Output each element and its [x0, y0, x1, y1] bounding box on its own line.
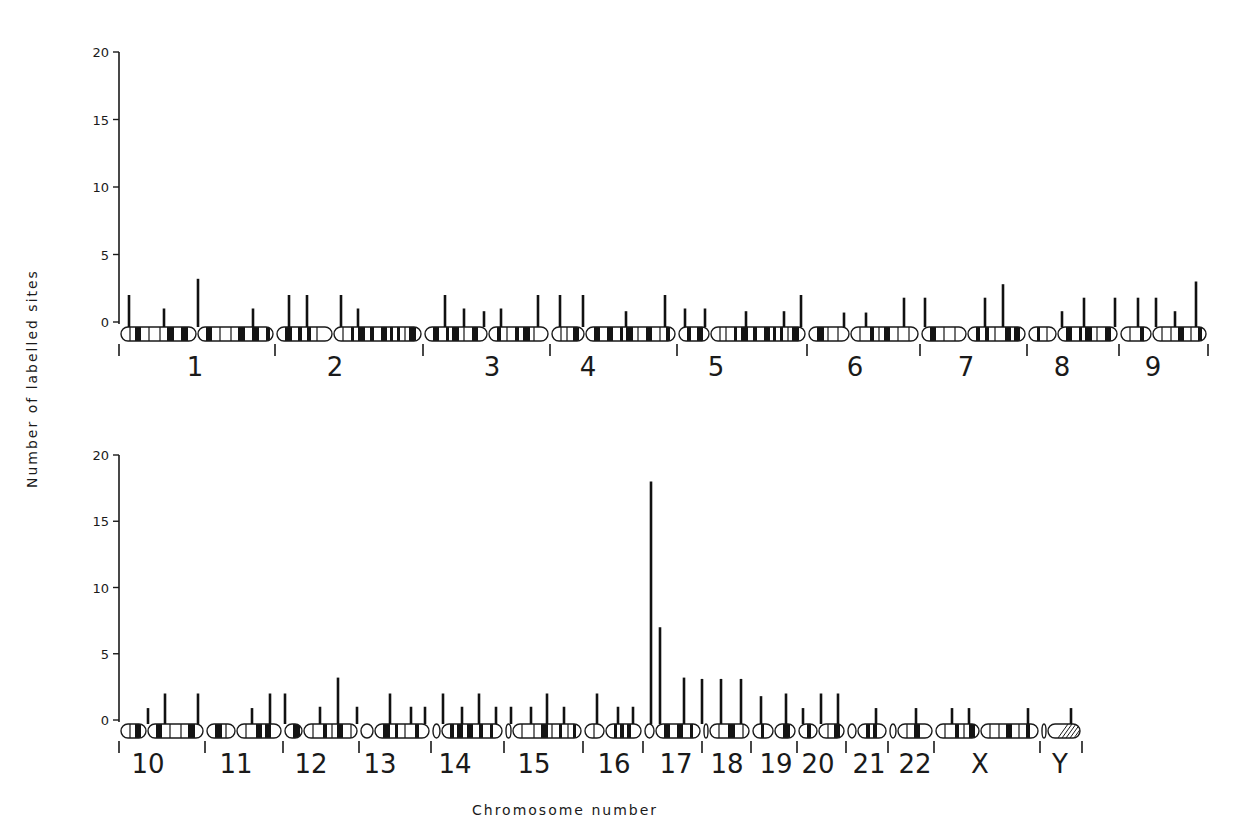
chromosome-label: 2 [327, 352, 344, 382]
y-tick-label: 20 [92, 45, 109, 60]
chromosome-arm [858, 724, 886, 738]
chromosome-label: 22 [898, 749, 931, 779]
chromosome-10: 10 [119, 694, 203, 780]
y-tick-label: 5 [101, 248, 109, 263]
chromosome-7: 7 [920, 284, 1025, 382]
chromosome-label: Y [1051, 749, 1068, 779]
chromosome-21: 21 [846, 708, 886, 779]
chromosome-label: 17 [659, 749, 692, 779]
chromosome-18: 18 [702, 679, 749, 779]
chromosome-arm [819, 724, 844, 738]
chromosome-arm [679, 327, 709, 341]
y-tick-label: 15 [92, 514, 109, 529]
chromosome-label: 11 [219, 749, 252, 779]
chromosome-arm [1029, 327, 1056, 341]
y-tick-label: 5 [101, 647, 109, 662]
chromosome-20: 20 [797, 694, 844, 780]
chromosome-3: 3 [423, 295, 548, 382]
chromosome-x: X [934, 708, 1038, 779]
chromosome-4: 4 [550, 295, 675, 382]
chromosome-label: 15 [517, 749, 550, 779]
y-tick-label: 10 [92, 581, 109, 596]
chromosome-15: 15 [504, 694, 581, 780]
chromosome-11: 11 [205, 694, 281, 780]
chromosome-label: 13 [363, 749, 396, 779]
chromosome-label: 21 [852, 749, 885, 779]
chromosome-14: 14 [431, 694, 502, 780]
chart-panel-bottom: 0510152010111213141516171819202122XY [92, 448, 1100, 779]
chromosome-label: X [971, 749, 989, 779]
chromosome-label: 14 [438, 749, 471, 779]
y-tick-label: 15 [92, 113, 109, 128]
chromosome-22: 22 [888, 708, 932, 779]
chromosome-19: 19 [751, 694, 795, 780]
chromosome-label: 7 [958, 352, 975, 382]
chromosome-distribution-chart: 05101520123456789 0510152010111213141516… [0, 0, 1240, 833]
chromosome-label: 3 [484, 352, 501, 382]
chromosome-6: 6 [807, 298, 918, 382]
chromosome-label: 20 [801, 749, 834, 779]
y-axis-label: Number of labelled sites [24, 269, 40, 488]
chromosome-arm [711, 327, 805, 341]
y-tick-label: 0 [101, 713, 109, 728]
y-tick-label: 10 [92, 180, 109, 195]
chromosome-arm [1121, 327, 1151, 341]
chromosome-arm [809, 327, 849, 341]
chart-panel-top: 05101520123456789 [92, 45, 1208, 382]
chromosome-label: 6 [847, 352, 864, 382]
chromosome-5: 5 [677, 295, 805, 382]
chromosome-9: 9 [1119, 282, 1208, 383]
chromosome-label: 18 [710, 749, 743, 779]
chromosome-label: 19 [759, 749, 792, 779]
chromosome-label: 12 [294, 749, 327, 779]
chromosome-8: 8 [1027, 298, 1117, 382]
chromosome-label: 10 [131, 749, 164, 779]
chromosome-arm [121, 724, 146, 738]
chromosome-1: 1 [119, 279, 273, 382]
chromosome-arm [334, 327, 421, 341]
chromosome-label: 5 [708, 352, 725, 382]
chromosome-arm [304, 724, 357, 738]
y-tick-label: 0 [101, 315, 109, 330]
chromosome-arm [552, 327, 584, 341]
chromosome-2: 2 [275, 295, 421, 382]
y-tick-label: 20 [92, 448, 109, 463]
x-axis-label: Chromosome number [472, 802, 658, 818]
chromosome-label: 1 [187, 352, 204, 382]
chromosome-label: 16 [597, 749, 630, 779]
chromosome-16: 16 [583, 694, 641, 780]
chromosome-label: 4 [580, 352, 597, 382]
chromosome-13: 13 [359, 694, 429, 780]
chromosome-17: 17 [643, 482, 700, 780]
chromosome-y: Y [1040, 708, 1100, 779]
chromosome-12: 12 [283, 678, 357, 779]
chromosome-label: 9 [1145, 352, 1162, 382]
chromosome-label: 8 [1054, 352, 1071, 382]
